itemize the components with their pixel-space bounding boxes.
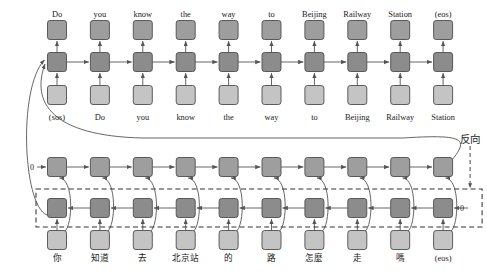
decoder-cell-box-6 xyxy=(305,53,324,72)
decoder-cell-box-0 xyxy=(48,53,67,72)
decoder-output-box-7 xyxy=(348,21,367,40)
seq2seq-diagram: DoyouknowthewaytoBeijingRailwayStation(e… xyxy=(0,0,487,275)
decoder-input-box-1 xyxy=(90,86,109,105)
encoder-source-box-7 xyxy=(348,231,367,250)
label-layer: DoyouknowthewaytoBeijingRailwayStation(e… xyxy=(30,10,480,263)
decoder-output-label-4: way xyxy=(222,10,237,19)
encoder-forward-cell-box-6 xyxy=(305,158,324,177)
decoder-input-label-1: Do xyxy=(95,113,105,122)
encoder-source-label-4: 的 xyxy=(224,252,233,263)
decoder-cell-box-4 xyxy=(219,53,238,72)
decoder-output-label-7: Railway xyxy=(343,10,372,19)
decoder-output-box-0 xyxy=(48,21,67,40)
decoder-input-box-4 xyxy=(219,86,238,105)
encoder-forward-cell-box-3 xyxy=(176,158,195,177)
decoder-output-label-1: you xyxy=(94,10,107,19)
decoder-cell-box-5 xyxy=(262,53,281,72)
encoder-backward-cell-box-3 xyxy=(176,199,195,218)
reverse-direction-label: 反向 xyxy=(460,133,480,145)
decoder-output-label-2: know xyxy=(133,10,153,19)
decoder-input-box-2 xyxy=(133,86,152,105)
decoder-input-label-2: you xyxy=(137,113,150,122)
decoder-cell-box-7 xyxy=(348,53,367,72)
encoder-backward-cell-box-7 xyxy=(348,199,367,218)
encoder-forward-cell-box-9 xyxy=(434,158,453,177)
encoder-forward-cell-box-5 xyxy=(262,158,281,177)
decoder-output-box-8 xyxy=(391,21,410,40)
encoder-forward-cell-box-1 xyxy=(90,158,109,177)
decoder-output-label-3: the xyxy=(181,10,192,19)
decoder-output-box-3 xyxy=(176,21,195,40)
decoder-cell-box-8 xyxy=(391,53,410,72)
decoder-input-box-0 xyxy=(48,86,67,105)
encoder-source-box-1 xyxy=(90,231,109,250)
decoder-input-box-8 xyxy=(391,86,410,105)
encoder-forward-cell-box-4 xyxy=(219,158,238,177)
decoder-output-box-5 xyxy=(262,21,281,40)
decoder-output-box-6 xyxy=(305,21,324,40)
encoder-source-label-5: 路 xyxy=(267,252,276,263)
decoder-output-label-0: Do xyxy=(52,10,62,19)
decoder-input-label-5: way xyxy=(265,113,280,122)
decoder-output-box-1 xyxy=(90,21,109,40)
decoder-output-box-4 xyxy=(219,21,238,40)
encoder-backward-init-label: 0 xyxy=(460,204,464,213)
encoder-source-box-2 xyxy=(133,231,152,250)
decoder-output-label-6: Beijing xyxy=(302,10,327,19)
encoder-backward-cell-box-0 xyxy=(48,199,67,218)
decoder-cell-box-9 xyxy=(434,53,453,72)
encoder-source-label-0: 你 xyxy=(53,252,62,263)
decoder-output-label-5: to xyxy=(268,10,275,19)
encoder-forward-cell-box-8 xyxy=(391,158,410,177)
decoder-output-box-2 xyxy=(133,21,152,40)
decoder-cell-box-3 xyxy=(176,53,195,72)
decoder-input-box-9 xyxy=(434,86,453,105)
encoder-source-label-6: 怎麼 xyxy=(305,252,323,263)
encoder-forward-cell-box-7 xyxy=(348,158,367,177)
encoder-backward-cell-box-5 xyxy=(262,199,281,218)
decoder-input-label-8: Railway xyxy=(386,113,415,122)
decoder-input-label-0: (sos) xyxy=(49,113,65,122)
encoder-source-box-9 xyxy=(434,231,453,250)
encoder-source-box-8 xyxy=(391,231,410,250)
encoder-backward-cell-box-8 xyxy=(391,199,410,218)
decoder-input-box-7 xyxy=(348,86,367,105)
encoder-backward-cell-box-1 xyxy=(90,199,109,218)
encoder-source-label-7: 走 xyxy=(353,253,362,263)
encoder-source-label-3: 北京站 xyxy=(172,252,199,263)
decoder-output-label-8: Station xyxy=(388,10,413,19)
encoder-backward-cell-box-4 xyxy=(219,199,238,218)
encoder-backward-cell-box-2 xyxy=(133,199,152,218)
decoder-input-box-3 xyxy=(176,86,195,105)
decoder-input-label-6: to xyxy=(311,113,318,122)
encoder-source-box-0 xyxy=(48,231,67,250)
decoder-input-label-9: Station xyxy=(431,113,456,122)
encoder-source-label-9: (eos) xyxy=(435,254,452,263)
encoder-forward-cell-box-2 xyxy=(133,158,152,177)
encoder-forward-cell-box-0 xyxy=(48,158,67,177)
encoder-source-label-2: 去 xyxy=(138,252,147,263)
decoder-input-box-5 xyxy=(262,86,281,105)
decoder-output-box-9 xyxy=(434,21,453,40)
decoder-cell-box-2 xyxy=(133,53,152,72)
decoder-input-label-4: the xyxy=(223,113,234,122)
decoder-input-label-3: know xyxy=(176,113,196,122)
encoder-forward-init-label: 0 xyxy=(30,163,34,172)
encoder-source-box-6 xyxy=(305,231,324,250)
encoder-backward-cell-box-6 xyxy=(305,199,324,218)
encoder-source-box-4 xyxy=(219,231,238,250)
decoder-input-label-7: Beijing xyxy=(345,113,370,122)
decoder-cell-box-1 xyxy=(90,53,109,72)
diagram-canvas: DoyouknowthewaytoBeijingRailwayStation(e… xyxy=(0,0,487,275)
encoder-backward-context-to-decoder xyxy=(27,60,50,216)
encoder-backward-cell-box-9 xyxy=(434,199,453,218)
decoder-output-label-9: (eos) xyxy=(435,10,452,19)
box-layer xyxy=(36,21,482,250)
encoder-source-label-1: 知道 xyxy=(91,252,109,263)
encoder-source-box-3 xyxy=(176,231,195,250)
encoder-source-label-8: 嗎 xyxy=(396,253,405,263)
encoder-source-box-5 xyxy=(262,231,281,250)
decoder-input-box-6 xyxy=(305,86,324,105)
